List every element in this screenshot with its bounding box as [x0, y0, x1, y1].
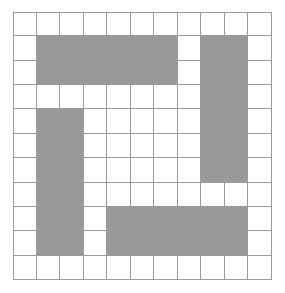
- grid-cell-r1-c6: [154, 36, 178, 60]
- grid-cell-r10-c7: [178, 256, 202, 280]
- grid-cell-r6-c2: [60, 158, 84, 182]
- grid-cell-r4-c10: [248, 109, 272, 133]
- grid-cell-r4-c6: [154, 109, 178, 133]
- grid-cell-r0-c1: [37, 12, 61, 36]
- grid-cell-r9-c2: [60, 231, 84, 255]
- grid-cell-r3-c6: [154, 85, 178, 109]
- grid-cell-r2-c2: [60, 61, 84, 85]
- grid-cell-r5-c9: [225, 134, 249, 158]
- grid-cell-r4-c5: [131, 109, 155, 133]
- grid-cell-r1-c9: [225, 36, 249, 60]
- grid-cell-r1-c10: [248, 36, 272, 60]
- grid-cell-r6-c1: [37, 158, 61, 182]
- grid-cell-r8-c2: [60, 207, 84, 231]
- grid-cell-r9-c10: [248, 231, 272, 255]
- grid-cell-r4-c7: [178, 109, 202, 133]
- grid-cell-r7-c8: [201, 183, 225, 207]
- grid-cell-r7-c0: [13, 183, 37, 207]
- grid-cell-r3-c10: [248, 85, 272, 109]
- grid-cell-r10-c5: [131, 256, 155, 280]
- grid-cell-r6-c8: [201, 158, 225, 182]
- grid-cell-r2-c7: [178, 61, 202, 85]
- grid-cell-r3-c4: [107, 85, 131, 109]
- grid-cell-r8-c9: [225, 207, 249, 231]
- grid-cell-r7-c1: [37, 183, 61, 207]
- grid-cell-r7-c4: [107, 183, 131, 207]
- grid-cell-r0-c9: [225, 12, 249, 36]
- grid-cell-r9-c7: [178, 231, 202, 255]
- grid-cell-r0-c5: [131, 12, 155, 36]
- grid-cell-r5-c1: [37, 134, 61, 158]
- grid-cell-r8-c10: [248, 207, 272, 231]
- grid-cell-r7-c2: [60, 183, 84, 207]
- grid-cell-r8-c3: [84, 207, 108, 231]
- grid-cell-r2-c6: [154, 61, 178, 85]
- grid-cell-r10-c6: [154, 256, 178, 280]
- grid-cell-r10-c9: [225, 256, 249, 280]
- grid-cell-r9-c4: [107, 231, 131, 255]
- grid-cell-r5-c5: [131, 134, 155, 158]
- grid-canvas: [13, 12, 272, 280]
- grid-cell-r0-c3: [84, 12, 108, 36]
- grid-cell-r4-c9: [225, 109, 249, 133]
- grid-cell-r5-c8: [201, 134, 225, 158]
- grid-cell-r5-c2: [60, 134, 84, 158]
- grid-cell-r3-c9: [225, 85, 249, 109]
- grid-cell-r4-c3: [84, 109, 108, 133]
- grid-cell-r9-c9: [225, 231, 249, 255]
- grid-cell-r8-c5: [131, 207, 155, 231]
- grid-cell-r2-c4: [107, 61, 131, 85]
- grid-cell-r1-c2: [60, 36, 84, 60]
- grid-cell-r9-c0: [13, 231, 37, 255]
- grid-cell-r8-c7: [178, 207, 202, 231]
- grid-cell-r10-c2: [60, 256, 84, 280]
- grid-cell-r5-c0: [13, 134, 37, 158]
- grid-cell-r0-c10: [248, 12, 272, 36]
- grid-cell-r3-c3: [84, 85, 108, 109]
- grid-cell-r4-c4: [107, 109, 131, 133]
- grid-cell-r0-c6: [154, 12, 178, 36]
- grid-cell-r6-c3: [84, 158, 108, 182]
- grid-cell-r7-c6: [154, 183, 178, 207]
- grid-cell-r8-c4: [107, 207, 131, 231]
- grid-cell-r1-c1: [37, 36, 61, 60]
- grid-cell-r7-c3: [84, 183, 108, 207]
- grid-cell-r3-c8: [201, 85, 225, 109]
- grid-cell-r1-c7: [178, 36, 202, 60]
- grid-cell-r1-c4: [107, 36, 131, 60]
- grid-cell-r8-c8: [201, 207, 225, 231]
- grid-cell-r0-c4: [107, 12, 131, 36]
- grid-cell-r2-c10: [248, 61, 272, 85]
- grid-cell-r5-c10: [248, 134, 272, 158]
- grid-cell-r4-c2: [60, 109, 84, 133]
- grid-cell-r2-c0: [13, 61, 37, 85]
- grid-cell-r5-c4: [107, 134, 131, 158]
- grid-cell-r9-c3: [84, 231, 108, 255]
- grid-cell-r1-c3: [84, 36, 108, 60]
- grid-cell-r1-c8: [201, 36, 225, 60]
- grid-cell-r8-c6: [154, 207, 178, 231]
- grid-cell-r3-c7: [178, 85, 202, 109]
- grid-cell-r4-c8: [201, 109, 225, 133]
- grid-cell-r2-c9: [225, 61, 249, 85]
- grid-cell-r5-c6: [154, 134, 178, 158]
- grid-cell-r4-c1: [37, 109, 61, 133]
- grid-cell-r9-c6: [154, 231, 178, 255]
- grid-cell-r10-c8: [201, 256, 225, 280]
- grid-cell-r1-c5: [131, 36, 155, 60]
- grid-cell-r9-c8: [201, 231, 225, 255]
- grid-cell-r2-c1: [37, 61, 61, 85]
- grid-cell-r10-c1: [37, 256, 61, 280]
- grid-cell-r10-c4: [107, 256, 131, 280]
- grid-cell-r3-c5: [131, 85, 155, 109]
- grid-cell-r0-c0: [13, 12, 37, 36]
- grid-cell-r6-c9: [225, 158, 249, 182]
- grid-cell-r7-c7: [178, 183, 202, 207]
- grid-cell-r1-c0: [13, 36, 37, 60]
- grid-cell-r0-c8: [201, 12, 225, 36]
- grid-cell-r6-c5: [131, 158, 155, 182]
- grid-cell-r2-c8: [201, 61, 225, 85]
- grid-cell-r7-c9: [225, 183, 249, 207]
- grid-cell-r2-c5: [131, 61, 155, 85]
- grid-cell-r2-c3: [84, 61, 108, 85]
